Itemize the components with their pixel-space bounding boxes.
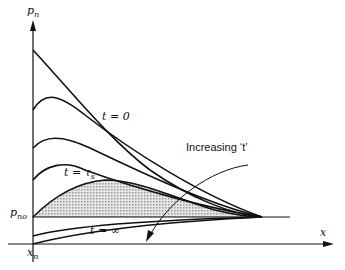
y-axis-label: pn: [27, 4, 39, 19]
origin-label: xn: [27, 246, 38, 261]
x-axis-label: x: [320, 226, 326, 239]
x-axis-arrow-icon: [323, 241, 334, 247]
increasing-t-annotation: Increasing ‘t’: [186, 141, 248, 153]
y-axis-arrow-icon: [30, 20, 36, 31]
baseline-label: pno: [10, 206, 27, 221]
label-ts: t = τs: [64, 166, 95, 181]
label-t0: t = 0: [102, 110, 130, 123]
diagram-canvas: [0, 0, 345, 270]
label-tinf: t = ∞: [90, 224, 120, 237]
increasing-t-arrowhead-icon: [146, 230, 154, 242]
